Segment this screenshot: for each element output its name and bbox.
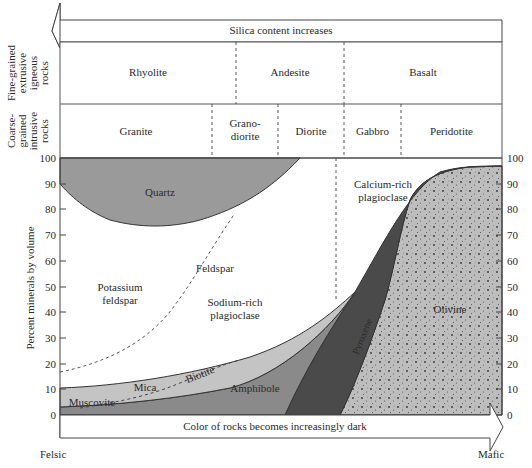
label-feldspar: Feldspar xyxy=(180,262,250,275)
label-line: feldspar xyxy=(80,294,160,307)
color-arrow-label: Color of rocks becomes increasingly dark xyxy=(60,420,490,433)
tick-label: 60 xyxy=(34,255,56,268)
tick-label: 80 xyxy=(34,203,56,216)
tick-label: 50 xyxy=(34,281,56,294)
label-potassium-feldspar: Potassium feldspar xyxy=(80,281,160,307)
rock-gabbro: Gabbro xyxy=(344,125,401,138)
rock-granodiorite-line2: diorite xyxy=(212,130,278,143)
fine-grained-row-title: Fine-grained extrusive igneous rocks xyxy=(6,42,50,104)
tick-label: 90 xyxy=(507,178,531,191)
felsic-label: Felsic xyxy=(40,448,90,461)
rock-granite: Granite xyxy=(60,125,212,138)
tick-label: 40 xyxy=(34,306,56,319)
tick-label: 90 xyxy=(34,178,56,191)
tick-label: 20 xyxy=(34,358,56,371)
tick-label: 40 xyxy=(507,306,531,319)
label-line: plagioclase xyxy=(338,191,428,204)
tick-label: 0 xyxy=(34,409,56,422)
tick-label: 60 xyxy=(507,255,531,268)
mafic-label: Mafic xyxy=(478,448,528,461)
label-sodium-rich-plagioclase: Sodium-rich plagioclase xyxy=(190,296,280,322)
rock-names-box xyxy=(60,42,502,158)
rock-granodiorite: Grano- diorite xyxy=(212,117,278,143)
tick-label: 80 xyxy=(507,203,531,216)
row-title-line: rocks xyxy=(39,104,50,158)
rock-granodiorite-line1: Grano- xyxy=(212,117,278,130)
tick-label: 70 xyxy=(34,229,56,242)
tick-label: 0 xyxy=(507,409,531,422)
rock-rhyolite: Rhyolite xyxy=(60,66,236,79)
tick-label: 10 xyxy=(34,383,56,396)
tick-label: 30 xyxy=(34,332,56,345)
label-quartz: Quartz xyxy=(130,186,190,199)
rock-peridotite: Peridotite xyxy=(401,125,502,138)
label-olivine: Olivine xyxy=(420,303,480,316)
tick-label: 100 xyxy=(30,152,56,165)
label-calcium-rich-plagioclase: Calcium-rich plagioclase xyxy=(338,178,428,204)
silica-arrow-label: Silica content increases xyxy=(60,24,502,37)
coarse-grained-row-title: Coarse- grained intrusive rocks xyxy=(6,104,50,158)
rock-basalt: Basalt xyxy=(344,66,502,79)
label-amphibole: Amphibole xyxy=(215,382,295,395)
tick-label: 30 xyxy=(507,332,531,345)
rock-andesite: Andesite xyxy=(236,66,344,79)
tick-label: 100 xyxy=(507,152,532,165)
tick-label: 20 xyxy=(507,358,531,371)
label-line: Sodium-rich xyxy=(190,296,280,309)
label-mica: Mica xyxy=(125,381,165,394)
label-line: Potassium xyxy=(80,281,160,294)
label-line: Calcium-rich xyxy=(338,178,428,191)
tick-label: 50 xyxy=(507,281,531,294)
tick-label: 70 xyxy=(507,229,531,242)
tick-label: 10 xyxy=(507,383,531,396)
label-muscovite: Muscovite xyxy=(62,396,122,409)
rock-diorite: Diorite xyxy=(278,125,344,138)
row-title-line: rocks xyxy=(39,42,50,104)
label-line: plagioclase xyxy=(190,309,280,322)
